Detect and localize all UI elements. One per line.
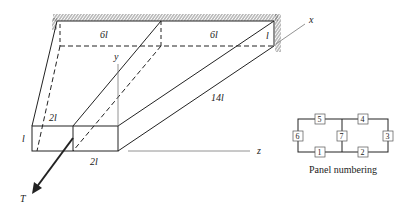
top-wall-hatch (53, 14, 278, 21)
panel-5: 5 (318, 115, 322, 124)
panel-6: 6 (296, 132, 300, 141)
right-wall-hatch (275, 14, 281, 52)
dim-front-bottom: 2l (90, 156, 98, 167)
x-axis-label: x (308, 14, 314, 25)
panel-4: 4 (361, 115, 365, 124)
dim-front-top: 2l (49, 112, 57, 123)
dim-right-height: l (266, 30, 269, 41)
panel-3: 3 (386, 132, 390, 141)
z-axis-label: z (256, 145, 261, 156)
panel-numbering-diagram: 5 4 6 7 3 1 2 Panel numbering (293, 114, 393, 175)
panel-7: 7 (340, 132, 344, 141)
structure-lines (32, 21, 274, 151)
dim-top-left: 6l (100, 29, 108, 40)
dim-length: 14l (211, 92, 224, 103)
panel-1: 1 (318, 148, 322, 157)
dim-top-right: 6l (210, 29, 218, 40)
y-axis-label: y (113, 51, 119, 62)
panel-2: 2 (361, 148, 365, 157)
wing-box-diagram: 6l 6l l 14l l 2l 2l y z x T 5 4 6 7 3 1 … (0, 0, 410, 208)
load-label: T (20, 193, 27, 204)
load-arrow (32, 138, 73, 194)
panel-numbering-caption: Panel numbering (309, 164, 377, 175)
dim-front-height: l (22, 133, 25, 144)
